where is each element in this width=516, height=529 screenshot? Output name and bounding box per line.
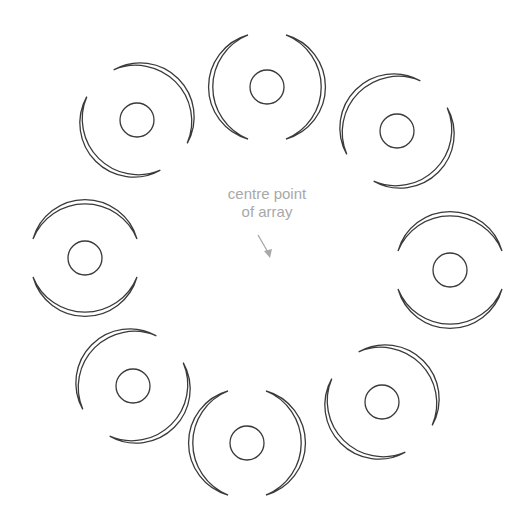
array-elements: [33, 35, 502, 495]
element-right: [398, 212, 502, 329]
element-bottom-left: [55, 308, 211, 464]
element-top-left: [59, 42, 215, 198]
centre-label-line1: centre point: [212, 185, 322, 203]
element-left: [33, 200, 137, 317]
centre-label-line2: of array: [212, 203, 322, 221]
element-top: [209, 35, 326, 139]
element-top-right: [319, 53, 475, 209]
centre-point-label: centre point of array: [212, 185, 322, 221]
element-bottom-right: [304, 324, 460, 480]
element-bottom: [189, 391, 306, 495]
polar-array-diagram: [0, 0, 516, 529]
arrow-icon: [258, 235, 272, 258]
